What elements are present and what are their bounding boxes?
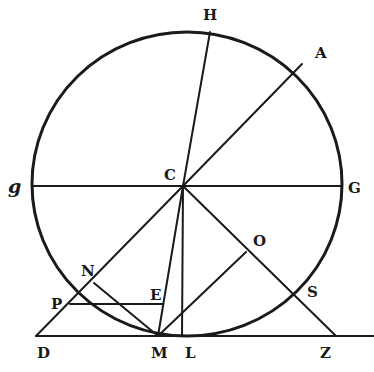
label-g: g [8, 175, 21, 197]
label-G: G [348, 179, 361, 197]
label-E: E [150, 286, 161, 304]
circle [32, 32, 342, 336]
geometric-diagram: H A C g G N O P E S D M L Z [0, 0, 374, 372]
label-H: H [203, 6, 217, 24]
label-D: D [37, 344, 50, 362]
label-N: N [81, 262, 95, 280]
label-L: L [185, 344, 196, 362]
line-NM [94, 283, 158, 336]
line-CZ [183, 186, 336, 336]
line-MO [158, 252, 246, 336]
label-S: S [307, 283, 318, 301]
label-C: C [164, 166, 176, 184]
label-A: A [314, 44, 327, 62]
label-Z: Z [320, 344, 331, 362]
label-M: M [151, 344, 168, 362]
label-O: O [253, 232, 266, 250]
label-P: P [51, 295, 62, 313]
